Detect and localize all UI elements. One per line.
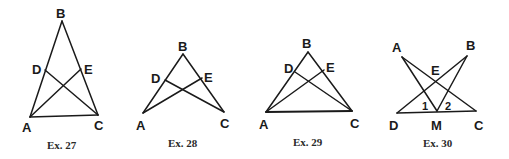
geometry-exercises-figure: B D E A C Ex. 27 B D E A C Ex. 28 B D E … xyxy=(0,0,509,159)
figure-ex-28: B D E A C Ex. 28 xyxy=(136,39,230,149)
segment-ab xyxy=(143,54,183,113)
segment-ae xyxy=(266,70,324,112)
label-e: E xyxy=(326,60,335,75)
label-d: D xyxy=(151,71,160,86)
label-m: M xyxy=(431,118,442,133)
label-b: B xyxy=(466,38,475,53)
label-a: A xyxy=(22,120,32,135)
segment-bm xyxy=(437,56,467,111)
label-b: B xyxy=(178,39,187,54)
label-a: A xyxy=(259,117,269,132)
segment-ac xyxy=(266,111,352,112)
segment-cd xyxy=(165,80,224,112)
figure-ex-27: B D E A C Ex. 27 xyxy=(22,6,104,151)
label-a: A xyxy=(136,118,146,133)
label-d: D xyxy=(389,118,398,133)
caption-ex-29: Ex. 29 xyxy=(293,136,323,148)
label-b: B xyxy=(302,36,311,51)
label-c: C xyxy=(94,118,104,133)
caption-ex-30: Ex. 30 xyxy=(423,137,453,149)
label-c: C xyxy=(474,118,484,133)
segment-cd xyxy=(295,72,352,111)
label-d: D xyxy=(284,61,293,76)
caption-ex-28: Ex. 28 xyxy=(168,137,198,149)
label-angle-1: 1 xyxy=(422,100,428,112)
label-e: E xyxy=(204,70,213,85)
caption-ex-27: Ex. 27 xyxy=(47,139,77,151)
label-a: A xyxy=(392,40,402,55)
label-e: E xyxy=(84,62,93,77)
label-angle-2: 2 xyxy=(445,100,451,112)
figure-ex-29: B D E A C Ex. 29 xyxy=(259,36,360,148)
label-c: C xyxy=(350,116,360,131)
label-e: E xyxy=(431,63,440,78)
label-b: B xyxy=(56,6,65,21)
figure-ex-30: A B E D M C 1 2 Ex. 30 xyxy=(389,38,484,149)
segment-ac xyxy=(30,115,98,117)
label-d: D xyxy=(32,62,41,77)
label-c: C xyxy=(220,116,230,131)
